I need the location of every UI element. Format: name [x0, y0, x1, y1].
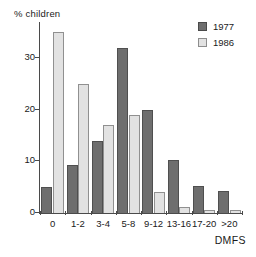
bar-group-3-4	[92, 22, 115, 213]
bar-group-0	[41, 22, 64, 213]
x-axis-title: DMFS	[215, 234, 246, 246]
x-tick-mark	[217, 211, 218, 215]
bar-group->20	[218, 22, 241, 213]
bar-1986-1-2	[78, 84, 89, 213]
bar-group-5-8	[117, 22, 140, 213]
bar-1986-3-4	[103, 125, 114, 213]
bar-1977-13-16	[168, 160, 179, 213]
y-axis-title: % children	[14, 8, 60, 19]
bar-1986->20	[230, 210, 241, 213]
x-tick-mark	[91, 211, 92, 215]
bars-layer	[40, 22, 242, 213]
bar-1977-1-2	[67, 165, 78, 213]
bar-group-13-16	[168, 22, 191, 213]
y-tick-label: 30	[24, 51, 35, 62]
x-tick-mark	[65, 211, 66, 215]
bar-1986-9-12	[154, 192, 165, 213]
bar-group-17-20	[193, 22, 216, 213]
x-tick-mark	[141, 211, 142, 215]
x-tick-mark	[116, 211, 117, 215]
y-tick-label: 0	[30, 206, 35, 217]
bar-1977-0	[41, 187, 52, 213]
bar-1986-13-16	[179, 207, 190, 213]
bar-chart: % children 19771986 0102030 01-23-45-89-…	[0, 0, 256, 257]
bar-1977-5-8	[117, 48, 128, 213]
bar-1977-9-12	[142, 110, 153, 213]
bar-group-1-2	[67, 22, 90, 213]
x-tick-label->20: >20	[213, 218, 246, 229]
bar-1977-3-4	[92, 141, 103, 213]
x-tick-mark	[166, 211, 167, 215]
x-tick-mark	[40, 211, 41, 215]
y-tick-label: 10	[24, 154, 35, 165]
bar-1986-0	[53, 32, 64, 213]
bar-group-9-12	[142, 22, 165, 213]
y-tick-label: 20	[24, 103, 35, 114]
bar-1986-17-20	[204, 210, 215, 213]
plot-area: 0102030	[39, 22, 242, 214]
x-tick-mark	[242, 211, 243, 215]
x-tick-mark	[192, 211, 193, 215]
bar-1986-5-8	[129, 115, 140, 213]
bar-1977->20	[218, 191, 229, 213]
bar-1977-17-20	[193, 186, 204, 213]
